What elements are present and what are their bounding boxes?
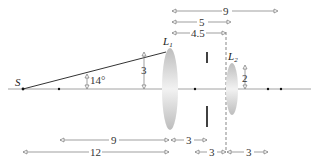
focal-point-a	[267, 88, 269, 90]
focal-point-f1-left	[58, 88, 60, 90]
dim-bottom-3b-label: 3	[209, 146, 215, 158]
angle-marker	[85, 74, 89, 89]
source-label: S	[15, 76, 21, 88]
dim-bottom-9-label: 9	[111, 134, 117, 146]
dim-bottom-12-label: 12	[90, 146, 101, 158]
focal-point-f1-right	[194, 88, 196, 90]
dim-top-4-5-label: 4.5	[191, 27, 205, 39]
optics-diagram: S 14° 3 L1 L2 2 9 5	[0, 0, 311, 164]
dim-top-9-label: 9	[223, 5, 229, 17]
height-label-2: 2	[242, 72, 248, 84]
focal-point-b	[280, 88, 282, 90]
angle-label: 14°	[90, 74, 105, 86]
height-label-3: 3	[141, 64, 147, 76]
lens-l1	[162, 48, 178, 130]
dim-bottom-3a-label: 3	[186, 134, 192, 146]
source-point	[22, 88, 25, 91]
lens-l2	[226, 63, 238, 115]
lens-l2-label: L2	[227, 50, 238, 64]
lens-l1-label: L1	[162, 35, 173, 49]
dim-bottom-3c-label: 3	[246, 146, 252, 158]
